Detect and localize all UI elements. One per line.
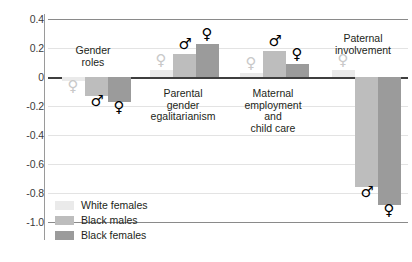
y-tick-label: -1.0 (4, 217, 44, 228)
y-tick-label: -0.2 (4, 101, 44, 112)
y-tick-label: -0.6 (4, 159, 44, 170)
legend-label: Black females (81, 230, 146, 241)
female-symbol-icon: ♀ (68, 79, 79, 94)
bar (332, 70, 355, 77)
gridline (48, 19, 408, 20)
male-symbol-icon: ♂ (179, 37, 192, 52)
bar-chart: 0.40.20-0.2-0.4-0.6-0.8-1.0 ♀♀♀♀♂♂♂♂♀♀♀♀… (0, 0, 412, 262)
female-symbol-icon: ♀ (246, 56, 257, 71)
bar (240, 73, 263, 77)
group-label: Maternal employment and child care (220, 88, 326, 134)
female-symbol-icon: ♀ (292, 47, 303, 62)
y-tick-label: -0.4 (4, 130, 44, 141)
female-symbol-icon: ♀ (384, 203, 395, 218)
gridline (48, 135, 408, 136)
legend-label: White females (81, 200, 148, 211)
legend: White femalesBlack malesBlack females (55, 199, 148, 244)
bar (378, 77, 401, 205)
female-symbol-icon: ♀ (202, 27, 213, 42)
legend-item: Black males (55, 214, 148, 227)
bar (355, 77, 378, 187)
bar (263, 51, 286, 77)
y-tick-label: 0 (4, 72, 44, 83)
legend-swatch (55, 201, 74, 210)
legend-label: Black males (81, 215, 138, 226)
y-tick-label: 0.2 (4, 43, 44, 54)
bar (286, 64, 309, 77)
legend-swatch (55, 231, 74, 240)
legend-swatch (55, 216, 74, 225)
y-tick-label: 0.4 (4, 14, 44, 25)
male-symbol-icon: ♂ (269, 34, 282, 49)
gridline (48, 164, 408, 165)
gridline (48, 193, 408, 194)
bar (196, 44, 219, 77)
female-symbol-icon: ♀ (156, 53, 167, 68)
male-symbol-icon: ♂ (361, 185, 374, 200)
bar (173, 54, 196, 77)
legend-item: Black females (55, 229, 148, 242)
y-tick-label: -0.8 (4, 188, 44, 199)
bar (150, 70, 173, 77)
y-axis-tick-labels: 0.40.20-0.2-0.4-0.6-0.8-1.0 (0, 0, 44, 262)
female-symbol-icon: ♀ (114, 100, 125, 115)
legend-item: White females (55, 199, 148, 212)
group-label: Gender roles (40, 45, 146, 68)
group-label: Paternal involvement (310, 33, 412, 56)
male-symbol-icon: ♂ (91, 94, 104, 109)
